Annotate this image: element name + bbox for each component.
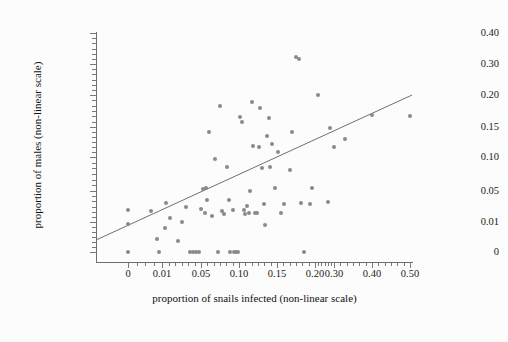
scatter-point xyxy=(218,104,222,108)
x-minor-tick-mark xyxy=(340,263,341,266)
y-minor-tick-mark xyxy=(92,106,96,107)
scatter-point xyxy=(250,100,254,104)
x-minor-tick-mark xyxy=(169,263,170,266)
scatter-point xyxy=(279,211,283,215)
x-minor-tick-mark xyxy=(328,263,329,266)
y-minor-tick-mark xyxy=(92,242,96,243)
scatter-point xyxy=(205,198,209,202)
y-minor-tick-mark xyxy=(92,142,96,143)
y-minor-tick-mark xyxy=(92,85,96,86)
scatter-point xyxy=(184,205,188,209)
y-minor-tick-mark xyxy=(92,100,96,101)
x-minor-tick-mark xyxy=(318,263,319,266)
scatter-point xyxy=(247,211,251,215)
scatter-point xyxy=(297,57,301,61)
x-minor-tick-mark xyxy=(214,263,215,266)
y-minor-tick-mark xyxy=(92,59,96,60)
x-minor-tick-mark xyxy=(182,263,183,266)
y-tick-label: 0 xyxy=(420,247,508,258)
scatter-point xyxy=(265,134,269,138)
y-tick-label: 0.30 xyxy=(420,59,508,70)
x-axis-title: proportion of snails infected (non-linea… xyxy=(96,292,413,304)
y-minor-tick-mark xyxy=(92,163,96,164)
y-minor-tick-mark xyxy=(92,90,96,91)
x-minor-tick-mark xyxy=(378,263,379,266)
y-tick-mark xyxy=(90,222,96,223)
scatter-point xyxy=(207,130,211,134)
scatter-point xyxy=(204,186,208,190)
scatter-point xyxy=(231,208,235,212)
y-minor-tick-mark xyxy=(92,212,96,213)
x-minor-tick-mark xyxy=(252,263,253,266)
scatter-point xyxy=(168,216,172,220)
scatter-point xyxy=(299,201,303,205)
x-minor-tick-mark xyxy=(233,263,234,266)
y-axis-title: proportion of males (non-linear scale) xyxy=(31,25,43,265)
y-minor-tick-mark xyxy=(92,152,96,153)
y-tick-mark xyxy=(90,191,96,192)
scatter-point xyxy=(216,250,220,254)
x-minor-tick-mark xyxy=(137,263,138,266)
y-minor-tick-mark xyxy=(92,247,96,248)
x-tick-label: 0.30 xyxy=(314,269,354,280)
scatter-point xyxy=(248,189,252,193)
scatter-point xyxy=(157,250,161,254)
scatter-point xyxy=(290,130,294,134)
scatter-point xyxy=(180,220,184,224)
x-minor-tick-mark xyxy=(359,263,360,266)
y-minor-tick-mark xyxy=(92,207,96,208)
y-tick-mark xyxy=(90,157,96,158)
y-tick-mark xyxy=(90,252,96,253)
y-minor-tick-mark xyxy=(92,137,96,138)
regression-line-path xyxy=(96,95,412,240)
scatter-point xyxy=(282,202,286,206)
x-minor-tick-mark xyxy=(207,263,208,266)
y-minor-tick-mark xyxy=(92,43,96,44)
scatter-point xyxy=(227,198,231,202)
x-tick-label: 0.10 xyxy=(219,269,259,280)
scatter-point xyxy=(176,239,180,243)
scatter-point xyxy=(213,157,217,161)
scatter-point xyxy=(270,142,274,146)
scatter-point xyxy=(126,222,130,226)
x-minor-tick-mark xyxy=(195,263,196,266)
y-minor-tick-mark xyxy=(92,196,96,197)
y-minor-tick-mark xyxy=(92,147,96,148)
x-minor-tick-mark xyxy=(385,263,386,266)
scatter-point xyxy=(343,137,347,141)
x-minor-tick-mark xyxy=(290,263,291,266)
y-tick-mark xyxy=(90,33,96,34)
x-minor-tick-mark xyxy=(296,263,297,266)
y-tick-label: 0.20 xyxy=(420,90,508,101)
x-minor-tick-mark xyxy=(397,263,398,266)
y-tick-mark xyxy=(90,64,96,65)
scatter-point xyxy=(149,209,153,213)
scatter-point xyxy=(316,93,320,97)
x-minor-tick-mark xyxy=(264,263,265,266)
x-minor-tick-mark xyxy=(325,263,326,266)
y-minor-tick-mark xyxy=(92,217,96,218)
y-minor-tick-mark xyxy=(92,237,96,238)
scatter-point xyxy=(328,126,332,130)
y-minor-tick-mark xyxy=(92,201,96,202)
scatter-point xyxy=(155,237,159,241)
scatter-point xyxy=(258,106,262,110)
y-minor-tick-mark xyxy=(92,122,96,123)
x-minor-tick-mark xyxy=(188,263,189,266)
x-minor-tick-mark xyxy=(302,263,303,266)
y-tick-label: 0.40 xyxy=(420,28,508,39)
scatter-point xyxy=(326,200,330,204)
scatter-point xyxy=(238,115,242,119)
x-minor-tick-mark xyxy=(220,263,221,266)
scatter-point xyxy=(126,250,130,254)
scatter-point xyxy=(308,202,312,206)
scatter-point xyxy=(267,116,271,120)
scatter-point xyxy=(310,186,314,190)
y-tick-label: 0.10 xyxy=(420,152,508,163)
scatter-point xyxy=(126,208,130,212)
scatter-point xyxy=(302,250,306,254)
x-minor-tick-mark xyxy=(245,263,246,266)
scatter-point xyxy=(245,204,249,208)
scatter-point xyxy=(370,113,374,117)
x-tick-label: 0.50 xyxy=(390,269,430,280)
